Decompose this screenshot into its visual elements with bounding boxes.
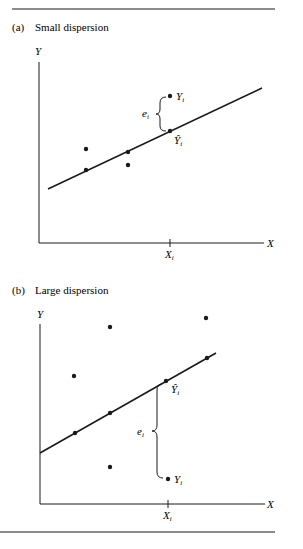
panel-b: (b) Large dispersion Y X Xi Ŷi Yi ei (12, 284, 275, 523)
panel-a-fitted-point (168, 129, 172, 133)
panel-b-xi-label: Xi (162, 509, 172, 523)
panel-a-tag: (a) (12, 21, 25, 34)
panel-b-fitted-label: Ŷi (171, 383, 179, 397)
panel-a-regression-line (48, 88, 262, 189)
panel-a-point (84, 147, 88, 151)
panel-a-title: Small dispersion (35, 21, 109, 33)
panel-b-point (73, 431, 77, 435)
figure-canvas: (a) Small dispersion Y X Xi Yi Ŷi ei (b)… (0, 0, 303, 549)
panel-b-residual-label: ei (137, 425, 144, 439)
panel-a-residual-brace (156, 97, 166, 131)
panel-a-xi-label: Xi (164, 248, 174, 262)
panel-b-observed-label: Yi (174, 473, 182, 487)
panel-a-observed-label: Yi (176, 90, 184, 104)
panel-a-point (84, 168, 88, 172)
panel-b-observed-point (166, 477, 170, 481)
panel-a-x-axis-label: X (266, 237, 275, 249)
panel-a-point (126, 150, 130, 154)
panel-b-y-axis-label: Y (37, 308, 45, 320)
panel-b-point (108, 465, 112, 469)
panel-a-point (126, 163, 130, 167)
panel-b-point (108, 411, 112, 415)
panel-b-regression-line (40, 353, 216, 453)
panel-b-x-axis-label: X (266, 498, 275, 510)
panel-a: (a) Small dispersion Y X Xi Yi Ŷi ei (12, 21, 275, 262)
panel-b-point (204, 316, 208, 320)
panel-a-observed-point (168, 94, 172, 98)
panel-b-point (72, 374, 76, 378)
panel-a-fitted-label: Ŷi (174, 134, 182, 148)
panel-b-residual-brace (152, 384, 163, 478)
panel-b-tag: (b) (12, 284, 25, 297)
panel-a-y-axis-label: Y (35, 45, 43, 57)
panel-b-point (205, 356, 209, 360)
panel-b-title: Large dispersion (35, 284, 109, 296)
panel-a-residual-label: ei (142, 107, 149, 121)
panel-b-point (108, 325, 112, 329)
panel-b-fitted-point (164, 379, 168, 383)
